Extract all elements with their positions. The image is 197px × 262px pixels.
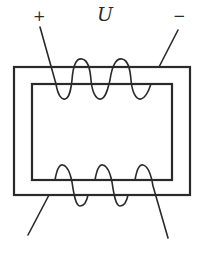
positive-terminal-label: +	[33, 7, 46, 25]
primary-negative-lead	[159, 30, 178, 67]
negative-terminal-label: −	[173, 7, 186, 25]
core-outer-edge	[14, 67, 190, 195]
voltage-label: U	[97, 3, 114, 25]
primary-winding-coil	[40, 27, 151, 99]
secondary-left-lead	[28, 195, 49, 235]
transformer-diagram: + U −	[0, 0, 197, 262]
secondary-winding-coil	[55, 165, 168, 238]
